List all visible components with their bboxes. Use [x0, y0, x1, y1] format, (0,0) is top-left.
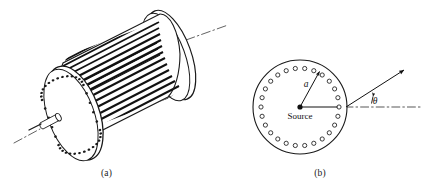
- radius-label: a: [304, 79, 309, 89]
- source-label: Source: [288, 111, 313, 121]
- angle-label: θ: [373, 96, 378, 106]
- cylinder-axis-far: [186, 25, 228, 40]
- panel-a-caption: (a): [0, 168, 213, 178]
- panel-b: a Source θ: [253, 60, 422, 154]
- cylinder-axis-near: [14, 129, 40, 143]
- panel-b-caption: (b): [213, 168, 427, 178]
- figure-canvas: a Source θ: [0, 0, 427, 196]
- figure-root: a Source θ (a) (b): [0, 0, 427, 196]
- source-point: [297, 104, 302, 109]
- panel-a: [14, 0, 228, 168]
